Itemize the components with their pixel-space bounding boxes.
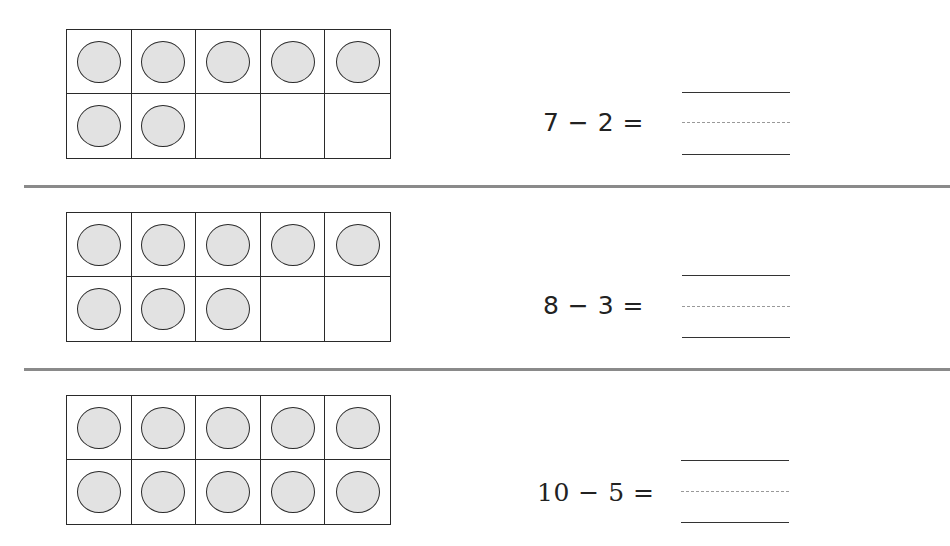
ten-frame-cell — [67, 277, 132, 341]
answer-top-line — [681, 460, 789, 461]
counter-icon — [77, 105, 121, 147]
answer-field-1[interactable] — [682, 92, 790, 156]
counter-icon — [206, 407, 250, 449]
ten-frame-cell-empty — [196, 94, 261, 158]
counter-icon — [271, 41, 315, 83]
ten-frame-cell — [325, 213, 390, 277]
ten-frame-3 — [66, 395, 391, 525]
answer-field-3[interactable] — [681, 460, 789, 524]
ten-frame-cell — [132, 396, 197, 460]
counter-icon — [141, 288, 185, 330]
ten-frame-cell — [261, 30, 326, 94]
ten-frame-cell — [261, 213, 326, 277]
counter-icon — [77, 41, 121, 83]
ten-frame-cell — [132, 30, 197, 94]
ten-frame-cell — [325, 396, 390, 460]
answer-field-2[interactable] — [682, 275, 790, 339]
ten-frame-cell — [67, 30, 132, 94]
counter-icon — [271, 471, 315, 513]
answer-mid-line — [681, 491, 789, 492]
counter-icon — [141, 407, 185, 449]
ten-frame-2 — [66, 212, 391, 342]
counter-icon — [206, 471, 250, 513]
counter-icon — [336, 224, 380, 266]
answer-top-line — [682, 92, 790, 93]
counter-icon — [271, 407, 315, 449]
ten-frame-cell — [67, 94, 132, 158]
counter-icon — [271, 224, 315, 266]
problem-1: 7 − 2 = — [0, 0, 946, 185]
ten-frame-cell-empty — [325, 94, 390, 158]
counter-icon — [141, 471, 185, 513]
answer-bottom-line — [681, 522, 789, 523]
ten-frame-cell-empty — [261, 277, 326, 341]
problem-2: 8 − 3 = — [0, 188, 946, 368]
counter-icon — [141, 224, 185, 266]
equation-2: 8 − 3 = — [543, 291, 644, 320]
counter-icon — [336, 41, 380, 83]
ten-frame-cell — [325, 30, 390, 94]
ten-frame-cell — [132, 94, 197, 158]
counter-icon — [141, 41, 185, 83]
ten-frame-cell — [196, 30, 261, 94]
ten-frame-cell — [67, 213, 132, 277]
ten-frame-cell — [132, 277, 197, 341]
counter-icon — [141, 105, 185, 147]
problem-3: 10 − 5 = — [0, 371, 946, 546]
answer-bottom-line — [682, 337, 790, 338]
answer-top-line — [682, 275, 790, 276]
ten-frame-cell — [325, 460, 390, 524]
ten-frame-cell — [196, 396, 261, 460]
ten-frame-cell — [67, 396, 132, 460]
counter-icon — [77, 288, 121, 330]
counter-icon — [336, 471, 380, 513]
ten-frame-1 — [66, 29, 391, 159]
counter-icon — [77, 224, 121, 266]
equation-1: 7 − 2 = — [543, 108, 644, 137]
ten-frame-cell-empty — [325, 277, 390, 341]
ten-frame-cell — [196, 277, 261, 341]
equation-3: 10 − 5 = — [537, 478, 654, 507]
ten-frame-cell — [261, 396, 326, 460]
ten-frame-cell — [132, 213, 197, 277]
counter-icon — [206, 224, 250, 266]
ten-frame-cell — [196, 460, 261, 524]
counter-icon — [77, 471, 121, 513]
answer-mid-line — [682, 122, 790, 123]
ten-frame-cell — [67, 460, 132, 524]
answer-mid-line — [682, 306, 790, 307]
counter-icon — [77, 407, 121, 449]
counter-icon — [336, 407, 380, 449]
ten-frame-cell — [132, 460, 197, 524]
ten-frame-cell — [196, 213, 261, 277]
counter-icon — [206, 41, 250, 83]
ten-frame-cell-empty — [261, 94, 326, 158]
counter-icon — [206, 288, 250, 330]
ten-frame-cell — [261, 460, 326, 524]
answer-bottom-line — [682, 154, 790, 155]
